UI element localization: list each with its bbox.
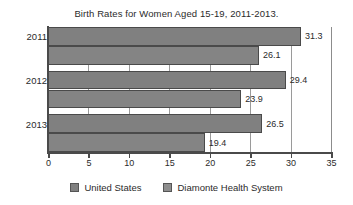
bar-value-label: 31.3 [305, 31, 323, 41]
bar [48, 90, 241, 109]
x-tick-label: 0 [46, 158, 51, 168]
legend-label: Diamonte Health System [177, 182, 282, 193]
bar [48, 133, 205, 152]
category-label: 2011 [27, 31, 47, 42]
x-tick-label: 30 [286, 158, 296, 168]
x-tick-label: 5 [86, 158, 91, 168]
category-label: 2013 [26, 118, 47, 129]
bar-value-label: 29.4 [290, 75, 308, 85]
bar [48, 46, 259, 65]
chart-title: Birth Rates for Women Aged 15-19, 2011-2… [0, 8, 353, 19]
x-tick-label: 20 [205, 158, 215, 168]
bar-chart: Birth Rates for Women Aged 15-19, 2011-2… [0, 0, 353, 205]
bar [48, 114, 262, 133]
bar [48, 27, 301, 46]
chart-legend: United StatesDiamonte Health System [0, 182, 353, 193]
legend-label: United States [84, 182, 141, 193]
legend-swatch-icon [163, 183, 172, 192]
bar-value-label: 19.4 [209, 138, 227, 148]
x-tick-label: 10 [124, 158, 134, 168]
legend-item[interactable]: United States [70, 182, 141, 193]
bar-value-label: 23.9 [245, 94, 263, 104]
category-label: 2012 [26, 75, 47, 86]
x-tick-label: 15 [165, 158, 175, 168]
bar [48, 71, 286, 90]
bar-value-label: 26.5 [266, 119, 284, 129]
x-tick-label: 25 [246, 158, 256, 168]
bar-value-label: 26.1 [263, 50, 281, 60]
legend-item[interactable]: Diamonte Health System [163, 182, 282, 193]
gridline [331, 27, 332, 152]
legend-swatch-icon [70, 183, 79, 192]
x-tick-label: 35 [326, 158, 336, 168]
